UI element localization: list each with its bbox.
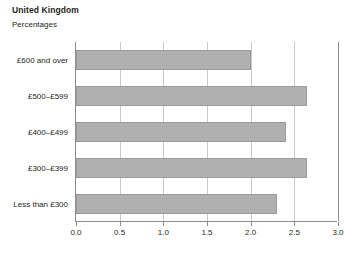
x-tick-mark	[120, 222, 121, 226]
bar-row: £400–£499	[76, 122, 338, 142]
bar-row: £600 and over	[76, 50, 338, 70]
x-tick-mark	[163, 222, 164, 226]
x-axis-tick-label: 1.5	[201, 228, 212, 237]
x-tick-mark	[207, 222, 208, 226]
x-tick-mark	[251, 222, 252, 226]
gridline-x-3.0	[338, 42, 339, 221]
x-axis-tick-label: 1.0	[158, 228, 169, 237]
x-tick-mark	[294, 222, 295, 226]
y-axis-category-label: £300–£399	[28, 164, 68, 173]
x-tick-mark	[338, 222, 339, 226]
x-axis-tick-label: 3.0	[332, 228, 343, 237]
bar-row: Less than £300	[76, 194, 338, 214]
plot-area: 0.00.51.01.52.02.53.0£600 and over£500–£…	[75, 42, 337, 222]
bar	[76, 122, 286, 142]
bar-row: £500–£599	[76, 86, 338, 106]
y-axis-category-label: £600 and over	[17, 56, 68, 65]
bar-row: £300–£399	[76, 158, 338, 178]
bar	[76, 158, 307, 178]
x-axis-tick-label: 0.5	[114, 228, 125, 237]
y-axis-category-label: £400–£499	[28, 128, 68, 137]
x-axis-tick-label: 2.0	[245, 228, 256, 237]
y-axis-category-label: Less than £300	[13, 200, 68, 209]
page-title: United Kingdom	[12, 5, 79, 15]
bar	[76, 86, 307, 106]
x-axis-tick-label: 2.5	[289, 228, 300, 237]
bar	[76, 50, 251, 70]
x-axis-tick-label: 0.0	[70, 228, 81, 237]
y-axis-category-label: £500–£599	[28, 92, 68, 101]
chart-subtitle: Percentages	[12, 20, 57, 29]
x-tick-mark	[76, 222, 77, 226]
chart-page: United Kingdom Percentages 0.00.51.01.52…	[0, 0, 357, 258]
bar	[76, 194, 277, 214]
